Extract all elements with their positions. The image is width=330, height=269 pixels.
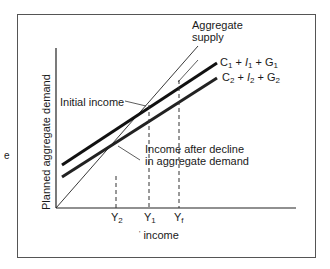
- after-decline-pointer: [118, 146, 140, 160]
- ad1-label: C1 + I1 + G1: [220, 56, 278, 72]
- x-tick-yf: Yf: [174, 211, 184, 225]
- initial-income-label: Initial income: [60, 96, 124, 108]
- stray-mark: e: [4, 150, 10, 162]
- aggregate-supply-label-line2: supply: [192, 31, 224, 43]
- x-axis-label: ' income: [139, 228, 179, 241]
- y-axis-label: Planned aggregate demand: [40, 74, 52, 210]
- x-tick-y1: Y1: [144, 211, 156, 225]
- aggregate-supply-label-line1: Aggregate: [192, 19, 243, 31]
- ad2-label: C2 + I2 + G2: [222, 71, 280, 87]
- aggregate-supply-line: [56, 46, 198, 208]
- after-decline-label-line2: in aggregate demand: [145, 155, 249, 167]
- after-decline-label-line1: Income after decline: [145, 143, 244, 155]
- initial-income-pointer: [125, 101, 146, 106]
- x-tick-y2: Y2: [111, 211, 123, 225]
